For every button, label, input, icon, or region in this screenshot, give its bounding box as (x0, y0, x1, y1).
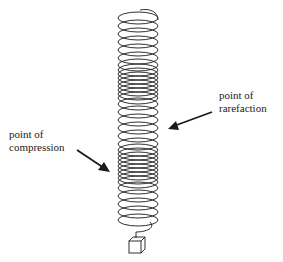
spring-coil (118, 198, 158, 210)
spring-coil (118, 190, 158, 202)
compression-label-line1: point of (9, 128, 65, 141)
spring-coil (118, 106, 158, 118)
spring-coil (118, 36, 158, 48)
spring-coil (118, 28, 158, 40)
hanging-string (136, 222, 152, 238)
spring-coil (118, 12, 158, 24)
weight-cube-icon (129, 237, 145, 253)
spring-coil (118, 122, 158, 134)
compression-label: point of compression (9, 128, 65, 154)
rarefaction-label-line2: rarefaction (219, 102, 267, 115)
compression-label-line2: compression (9, 141, 65, 154)
spring-coil (118, 206, 158, 218)
spring-coil (118, 52, 158, 64)
spring-coil (118, 44, 158, 56)
rarefaction-arrow-icon (168, 112, 212, 130)
rarefaction-label-line1: point of (219, 89, 267, 102)
rarefaction-label: point of rarefaction (219, 89, 267, 115)
compression-arrow-icon (77, 150, 110, 172)
spring-coil (118, 59, 158, 71)
spring-coil (118, 130, 158, 142)
spring-coil (118, 20, 158, 32)
spring-coils (118, 12, 158, 226)
spring-coil (118, 114, 158, 126)
